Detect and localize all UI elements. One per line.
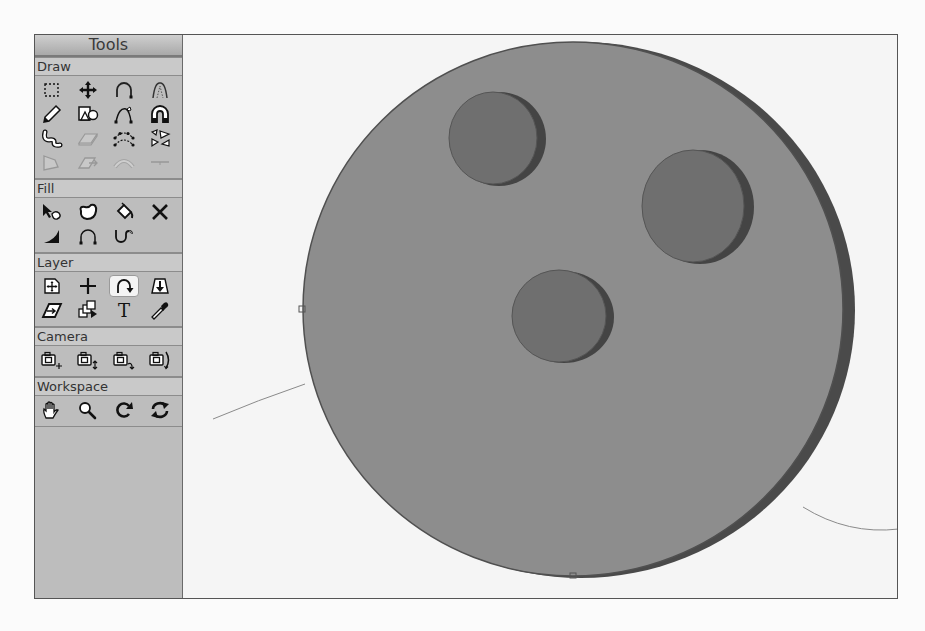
camera-vertical-icon: [77, 350, 99, 370]
tool-delete[interactable]: [145, 201, 175, 223]
refresh-icon: [149, 400, 171, 420]
squiggle-icon: [41, 128, 63, 148]
dotted-arch-icon: [149, 80, 171, 100]
x-icon: [149, 202, 171, 222]
plane-icon: [77, 128, 99, 148]
shapes-icon: [77, 104, 99, 124]
section-workspace-header: Workspace: [35, 377, 182, 396]
text-icon: T: [113, 300, 135, 320]
tool-camera-orbit[interactable]: [145, 349, 175, 371]
tool-tube[interactable]: [109, 151, 139, 173]
draw-tools: [35, 76, 182, 179]
tool-blob[interactable]: [73, 201, 103, 223]
plus-icon: [77, 276, 99, 296]
tool-layer-move[interactable]: [37, 275, 67, 297]
tool-freeform[interactable]: [37, 127, 67, 149]
tool-hand[interactable]: [37, 399, 67, 421]
tool-zoom[interactable]: [73, 399, 103, 421]
tool-extrude-plane[interactable]: [73, 127, 103, 149]
arc-arrow-icon: [113, 276, 135, 296]
tool-ramp[interactable]: [37, 225, 67, 247]
blank-icon: [149, 226, 171, 246]
tool-bezier-arch[interactable]: [145, 79, 175, 101]
layer-move-icon: [41, 276, 63, 296]
section-layer-header: Layer: [35, 253, 182, 272]
tool-arc[interactable]: [109, 79, 139, 101]
tool-camera-pan[interactable]: [37, 349, 67, 371]
tool-multi-point-curve[interactable]: [109, 127, 139, 149]
tool-magnet[interactable]: [145, 103, 175, 125]
arch-points-icon: [77, 226, 99, 246]
tool-camera-vertical[interactable]: [73, 349, 103, 371]
scene-canvas[interactable]: [183, 35, 897, 598]
tools-panel-title: Tools: [35, 35, 182, 57]
stack-icon: [77, 300, 99, 320]
ramp-icon: [41, 226, 63, 246]
hole-1[interactable]: [449, 92, 546, 186]
magnifier-icon: [77, 400, 99, 420]
move-arrows-icon: [77, 80, 99, 100]
eyedropper-icon: [149, 300, 171, 320]
tool-layer-arc[interactable]: [109, 275, 139, 297]
blob-icon: [77, 202, 99, 222]
camera-orbit-icon: [149, 350, 171, 370]
rotate-icon: [113, 400, 135, 420]
camera-tools: [35, 346, 182, 377]
section-fill-header: Fill: [35, 179, 182, 198]
tool-camera-turn[interactable]: [109, 349, 139, 371]
tool-rectangle-select[interactable]: [37, 79, 67, 101]
tool-rotate[interactable]: [109, 399, 139, 421]
bucket-icon: [113, 202, 135, 222]
tool-triangles[interactable]: [145, 127, 175, 149]
tool-eyedropper[interactable]: [145, 299, 175, 321]
tool-pencil[interactable]: [37, 103, 67, 125]
arc-icon: [113, 80, 135, 100]
tool-text[interactable]: T: [109, 299, 139, 321]
polygon-icon: [41, 152, 63, 172]
tool-shapes[interactable]: [73, 103, 103, 125]
tool-crosshair[interactable]: [73, 275, 103, 297]
tool-refresh[interactable]: [145, 399, 175, 421]
pencil-icon: [41, 104, 63, 124]
tool-paint-bucket[interactable]: [109, 201, 139, 223]
tool-polygon[interactable]: [37, 151, 67, 173]
hand-icon: [41, 400, 63, 420]
tube-icon: [113, 152, 135, 172]
dashed-rect-icon: [41, 80, 63, 100]
3d-viewport[interactable]: [183, 35, 897, 598]
tool-plane-move[interactable]: [37, 299, 67, 321]
tools-panel: Tools Draw: [35, 35, 183, 598]
plane-arrow-icon: [77, 152, 99, 172]
guide-curve-left: [213, 384, 305, 419]
triangles-icon: [149, 128, 171, 148]
curve-edit-icon: [113, 104, 135, 124]
hole-2[interactable]: [642, 150, 754, 264]
hole-3[interactable]: [512, 270, 614, 363]
magnet-icon: [149, 104, 171, 124]
u-curve-icon: [113, 226, 135, 246]
section-draw-header: Draw: [35, 57, 182, 76]
tool-curve-edit[interactable]: [109, 103, 139, 125]
workspace-tools: [35, 396, 182, 427]
guide-curve-right: [803, 507, 897, 530]
tool-line[interactable]: [145, 151, 175, 173]
tool-stack[interactable]: [73, 299, 103, 321]
svg-text:T: T: [118, 300, 130, 320]
tool-arch-fill[interactable]: [73, 225, 103, 247]
layer-drop-icon: [149, 276, 171, 296]
tool-u-curve[interactable]: [109, 225, 139, 247]
arrow-blob-icon: [41, 202, 63, 222]
fill-tools: [35, 198, 182, 253]
tool-select-fill[interactable]: [37, 201, 67, 223]
camera-plus-icon: [41, 350, 63, 370]
app-window: Tools Draw: [34, 34, 898, 599]
layer-tools: T: [35, 272, 182, 327]
tool-empty: [145, 225, 175, 247]
line-icon: [149, 152, 171, 172]
camera-turn-icon: [113, 350, 135, 370]
tool-layer-drop[interactable]: [145, 275, 175, 297]
multi-curve-icon: [113, 128, 135, 148]
tool-move[interactable]: [73, 79, 103, 101]
tool-plane-arrow[interactable]: [73, 151, 103, 173]
section-camera-header: Camera: [35, 327, 182, 346]
